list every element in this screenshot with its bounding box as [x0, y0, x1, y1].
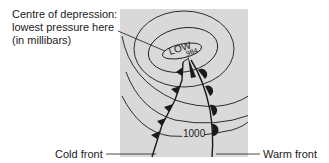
isobar-1000-label: 1000: [183, 128, 206, 139]
depression-diagram: LOW 984 1000 Centre of depression: lowes…: [0, 0, 329, 163]
centre-annotation-line2: lowest pressure here: [12, 21, 117, 34]
centre-annotation-line3: (in millibars): [12, 34, 117, 47]
centre-annotation-line1: Centre of depression:: [12, 8, 117, 21]
warm-front-label: Warm front: [263, 148, 317, 161]
centre-annotation: Centre of depression: lowest pressure he…: [12, 8, 117, 47]
cold-front-label: Cold front: [55, 148, 103, 161]
